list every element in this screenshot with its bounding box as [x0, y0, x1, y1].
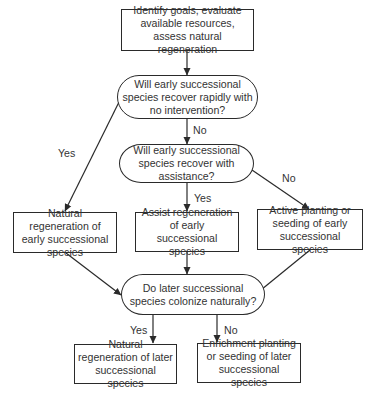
- decision-recover-with-assistance-text: Will early successional species recover …: [123, 144, 250, 183]
- decision-later-colonize-text: Do later successional species colonize n…: [125, 282, 261, 308]
- assist-regeneration-early-box: Assist regeneration of early successiona…: [135, 212, 239, 252]
- arrow-active-early-to-q3: [256, 250, 310, 294]
- edge-label-q1-no: No: [193, 124, 207, 136]
- decision-recover-rapidly: Will early successional species recover …: [117, 75, 258, 119]
- edge-label-q1-yes: Yes: [58, 147, 75, 159]
- decision-later-colonize: Do later successional species colonize n…: [121, 274, 265, 315]
- decision-recover-rapidly-text: Will early successional species recover …: [121, 78, 254, 117]
- natural-regeneration-early-text: Natural regeneration of early succession…: [17, 207, 113, 259]
- start-box: Identify goals, evaluate available resou…: [121, 9, 254, 51]
- connector-layer: [0, 0, 368, 397]
- decision-recover-with-assistance: Will early successional species recover …: [119, 144, 254, 183]
- natural-regeneration-later-box: Natural regeneration of later succession…: [74, 344, 177, 384]
- enrichment-planting-later-text: Enrichment planting or seeding of later …: [201, 337, 297, 389]
- enrichment-planting-later-box: Enrichment planting or seeding of later …: [197, 343, 301, 383]
- edge-label-q3-yes: Yes: [130, 324, 147, 336]
- edge-label-q3-no: No: [224, 324, 238, 336]
- natural-regeneration-later-text: Natural regeneration of later succession…: [78, 338, 173, 390]
- assist-regeneration-early-text: Assist regeneration of early successiona…: [139, 206, 235, 258]
- active-planting-early-text: Active planting or seeding of early succ…: [261, 204, 359, 256]
- start-text: Identify goals, evaluate available resou…: [125, 4, 250, 56]
- active-planting-early-box: Active planting or seeding of early succ…: [257, 209, 363, 250]
- edge-label-q2-yes: Yes: [194, 192, 211, 204]
- natural-regeneration-early-box: Natural regeneration of early succession…: [13, 212, 117, 253]
- edge-label-q2-no: No: [282, 172, 296, 184]
- arrow-natural-early-to-q3: [66, 253, 121, 295]
